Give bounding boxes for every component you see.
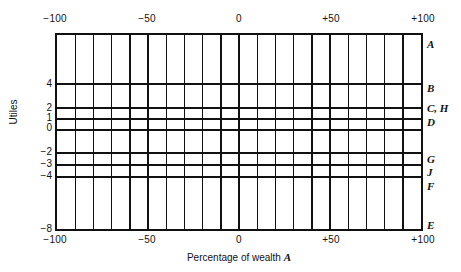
x-tick-bottom-plus100: +100	[411, 235, 434, 245]
curve-label-F: F	[427, 181, 434, 192]
curve-label-CH: C, H	[427, 103, 448, 114]
x-axis-title-variable: A	[284, 251, 291, 263]
plot-area	[55, 33, 423, 231]
y-axis-title: Utiles	[9, 82, 19, 142]
y-tick-minus3: −3	[4, 159, 52, 169]
x-axis-title-text: Percentage of wealth	[187, 252, 281, 263]
x-tick-bottom-zero: 0	[236, 235, 242, 245]
curve-label-E: E	[427, 220, 434, 231]
curve-label-J: J	[427, 167, 433, 178]
x-axis-top-ticks: −100 −50 0 +50 +100	[0, 14, 461, 26]
x-tick-bottom-minus50: −50	[138, 235, 156, 245]
utility-chart-figure: −100 −50 0 +50 +100	[0, 0, 461, 272]
curve-label-B: B	[427, 83, 434, 94]
grid-lines	[57, 35, 421, 229]
x-tick-bottom-plus50: +50	[322, 235, 340, 245]
x-tick-top-plus50: +50	[322, 14, 340, 24]
y-tick-minus4: −4	[4, 171, 52, 181]
x-axis-bottom-ticks: −100 −50 0 +50 +100	[0, 235, 461, 247]
curve-label-G: G	[427, 154, 435, 165]
curve-label-A: A	[427, 39, 434, 50]
curve-labels: A B C, H D G J F E	[427, 0, 461, 272]
y-tick-minus8: −8	[4, 224, 52, 234]
x-tick-bottom-minus100: −100	[43, 235, 66, 245]
x-tick-top-minus50: −50	[138, 14, 156, 24]
curve-label-D: D	[427, 117, 435, 128]
y-axis-ticks: 4 2 1 0 −2 −3 −4 −8	[0, 0, 52, 272]
x-axis-title: Percentage of wealth A	[55, 252, 423, 263]
y-tick-minus2: −2	[4, 147, 52, 157]
x-tick-top-zero: 0	[236, 14, 242, 24]
